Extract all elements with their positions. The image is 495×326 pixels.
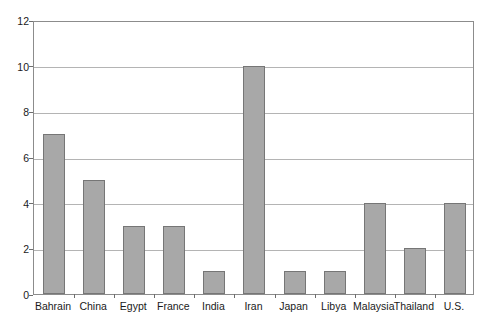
x-axis-tick-label: China (79, 299, 106, 313)
x-axis-tick-mark (74, 294, 75, 298)
bar-slot (275, 22, 315, 294)
bar[interactable] (83, 180, 105, 294)
bar-slot (154, 22, 194, 294)
x-axis-tick-label: Malaysia (353, 299, 394, 313)
x-axis-tick-label: U.S. (444, 299, 464, 313)
x-axis-tick-label: Japan (279, 299, 308, 313)
y-axis-tick-label: 12 (3, 16, 29, 27)
bar[interactable] (444, 203, 466, 294)
y-axis-tick-label: 0 (3, 290, 29, 301)
plot-area (33, 21, 474, 295)
x-axis-tick-mark (114, 294, 115, 298)
bar-slot (234, 22, 274, 294)
bar-slot (355, 22, 395, 294)
x-axis-tick-label: Egypt (120, 299, 147, 313)
x-axis-tick-label: Iran (244, 299, 262, 313)
y-axis-tick-label: 10 (3, 61, 29, 72)
bar[interactable] (404, 248, 426, 294)
bar-slot (114, 22, 154, 294)
x-axis-tick-mark (435, 294, 436, 298)
y-axis-tick-label: 6 (3, 153, 29, 164)
bar[interactable] (123, 226, 145, 295)
bar[interactable] (364, 203, 386, 294)
x-axis-tick-mark (234, 294, 235, 298)
bar[interactable] (163, 226, 185, 295)
x-axis: BahrainChinaEgyptFranceIndiaIranJapanLib… (33, 299, 474, 317)
y-axis-tick-label: 4 (3, 198, 29, 209)
x-axis-tick-mark (355, 294, 356, 298)
x-axis-tick-label: Bahrain (35, 299, 71, 313)
bar-slot (395, 22, 435, 294)
bar-slot (435, 22, 475, 294)
bar[interactable] (284, 271, 306, 294)
bars-layer (34, 22, 473, 294)
bar-slot (34, 22, 74, 294)
x-axis-tick-mark (194, 294, 195, 298)
x-axis-tick-mark (395, 294, 396, 298)
y-axis: 024681012 (0, 21, 29, 295)
bar[interactable] (243, 66, 265, 294)
bar[interactable] (324, 271, 346, 294)
y-axis-tick-label: 2 (3, 244, 29, 255)
bar-slot (74, 22, 114, 294)
bar-chart: 024681012 BahrainChinaEgyptFranceIndiaIr… (0, 0, 495, 326)
x-axis-tick-label: France (157, 299, 190, 313)
y-axis-tick-label: 8 (3, 107, 29, 118)
x-axis-tick-mark (275, 294, 276, 298)
x-axis-tick-mark (154, 294, 155, 298)
x-axis-tick-label: Libya (321, 299, 346, 313)
bar-slot (194, 22, 234, 294)
x-axis-tick-label: India (202, 299, 225, 313)
bar[interactable] (43, 134, 65, 294)
bar[interactable] (203, 271, 225, 294)
x-axis-tick-mark (315, 294, 316, 298)
x-axis-tick-label: Thailand (394, 299, 434, 313)
bar-slot (315, 22, 355, 294)
